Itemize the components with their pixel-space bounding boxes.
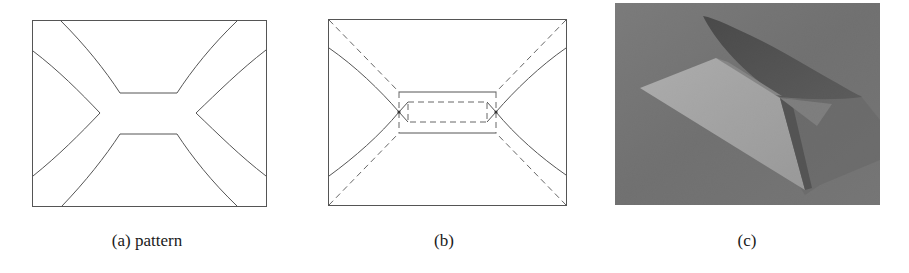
caption-b: (b) <box>434 231 454 251</box>
pattern-a-curve-left-lower <box>33 113 100 176</box>
pattern-a-curve-bottom-left <box>62 134 120 206</box>
crease-b-solid-left-upper <box>329 48 399 112</box>
panel-b-vertices <box>397 110 497 113</box>
crease-b-dash-bottom-right <box>496 133 566 205</box>
caption-a: (a) pattern <box>112 231 182 251</box>
panel-b-fold-lines <box>329 20 566 205</box>
crease-b-vertex-left <box>397 110 400 113</box>
crease-b-border <box>329 20 567 206</box>
pattern-a-curve-left-upper <box>33 51 100 113</box>
crease-b-vertex-right <box>494 110 497 113</box>
panel-c-photo <box>615 3 880 205</box>
crease-b-dash-inner-rect <box>408 102 487 122</box>
crease-b-solid-right-upper <box>496 48 566 112</box>
caption-c: (c) <box>738 231 757 251</box>
pattern-a-curve-bottom-right <box>177 134 237 206</box>
pattern-a-curve-right-upper <box>196 50 266 113</box>
panel-b-crease-drawing <box>329 20 567 206</box>
crease-b-dash-bottom-left <box>329 133 399 205</box>
pattern-a-border <box>33 21 267 207</box>
pattern-a-curve-right-lower <box>196 113 266 176</box>
